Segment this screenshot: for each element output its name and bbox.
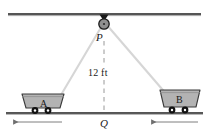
label-pulley-point-p: P <box>96 32 103 43</box>
cart-b-wheel-left-hub <box>171 109 173 111</box>
cart-a-wheel-right-hub <box>47 109 49 111</box>
label-ground-point-q: Q <box>100 118 108 129</box>
label-height-measure: 12 ft <box>88 68 108 78</box>
pulley-axle <box>103 23 105 25</box>
label-cart-b: B <box>176 95 183 105</box>
pulley-diagram: P Q 12 ft A B <box>0 0 209 134</box>
rope-group <box>58 24 168 100</box>
cart-b-wheel-right-hub <box>184 109 186 111</box>
pulley-icon <box>99 19 109 29</box>
label-cart-a: A <box>40 99 47 109</box>
rope-to-cart-b <box>106 24 168 96</box>
cart-a-wheel-left-hub <box>34 109 36 111</box>
